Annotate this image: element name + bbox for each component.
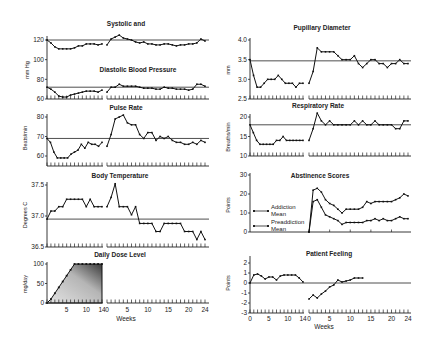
data-point	[89, 90, 91, 92]
data-point	[407, 63, 409, 65]
data-point	[172, 87, 174, 89]
data-point	[391, 220, 393, 222]
data-point	[274, 79, 276, 81]
data-point	[298, 277, 300, 279]
axes: 201510	[240, 112, 411, 159]
axes: 3020100	[240, 171, 411, 235]
data-point	[58, 206, 60, 208]
data-point	[184, 144, 186, 146]
data-point	[333, 218, 335, 220]
data-point	[60, 157, 62, 159]
data-point	[123, 114, 125, 116]
dose-area	[47, 264, 102, 303]
data-point	[188, 89, 190, 91]
x-tick-label: 0	[105, 306, 109, 313]
data-point	[139, 86, 141, 88]
data-point	[66, 48, 68, 50]
data-point	[264, 278, 266, 280]
x-tick-label: 5	[65, 306, 69, 313]
y-tick-label: 0	[40, 299, 44, 306]
data-point	[302, 140, 304, 142]
x-tick-label: 5	[126, 306, 130, 313]
chart-title: Systolic and	[107, 20, 145, 28]
data-point	[272, 276, 274, 278]
data-point	[382, 201, 384, 203]
data-point	[74, 93, 76, 95]
axes: 100500510140510152024	[33, 260, 209, 313]
chart-title: Pulse Rate	[109, 104, 143, 111]
data-point	[66, 198, 68, 200]
data-point	[98, 145, 100, 147]
svg-text:Mean: Mean	[271, 226, 286, 232]
data-point	[89, 43, 91, 45]
data-point	[196, 144, 198, 146]
data-point	[58, 48, 60, 50]
data-point	[292, 140, 294, 142]
data-point	[94, 144, 96, 146]
data-point	[358, 208, 360, 210]
data-point	[312, 189, 314, 191]
data-point	[192, 231, 194, 233]
data-point	[378, 220, 380, 222]
data-point	[321, 51, 323, 53]
data-point	[127, 206, 129, 208]
data-point	[374, 120, 376, 122]
data-point	[403, 63, 405, 65]
data-point	[257, 273, 259, 275]
data-point	[253, 274, 255, 276]
y-tick-label: 120	[33, 36, 44, 43]
y-tick-label: 20	[240, 190, 248, 197]
data-point	[387, 124, 389, 126]
data-point	[184, 88, 186, 90]
data-point	[302, 281, 304, 283]
data-point	[159, 231, 161, 233]
data-point	[349, 208, 351, 210]
data-point	[276, 140, 278, 142]
data-point	[176, 223, 178, 225]
data-point	[288, 82, 290, 84]
data-point	[382, 218, 384, 220]
y-tick-label: 30	[240, 171, 248, 178]
data-point	[270, 79, 272, 81]
data-point	[114, 86, 116, 88]
data-point	[204, 40, 206, 42]
data-point	[46, 39, 48, 41]
data-point	[329, 203, 331, 205]
data-point	[70, 48, 72, 50]
data-point	[82, 198, 84, 200]
data-point	[370, 203, 372, 205]
data-point	[329, 120, 331, 122]
data-point	[366, 63, 368, 65]
data-point	[135, 124, 137, 126]
data-point	[106, 91, 108, 93]
svg-text:Addiction: Addiction	[271, 204, 296, 210]
data-point	[167, 223, 169, 225]
data-point	[159, 44, 161, 46]
data-point	[204, 85, 206, 87]
y-tick-label: 60	[37, 95, 45, 102]
data-point	[204, 142, 206, 144]
data-point	[399, 216, 401, 218]
data-point	[299, 82, 301, 84]
data-point	[54, 46, 56, 48]
data-point	[337, 220, 339, 222]
data-point	[341, 59, 343, 61]
data-point	[329, 216, 331, 218]
data-point	[131, 214, 133, 216]
data-point	[362, 207, 364, 209]
data-point	[200, 83, 202, 85]
data-point	[97, 91, 99, 93]
data-point	[266, 144, 268, 146]
data-point	[337, 55, 339, 57]
data-point	[407, 218, 409, 220]
data-point	[260, 86, 262, 88]
data-point	[127, 38, 129, 40]
y-tick-label: 100	[33, 260, 44, 267]
data-point	[78, 198, 80, 200]
data-point	[87, 142, 89, 144]
data-point	[403, 218, 405, 220]
svg-text:Preaddiction: Preaddiction	[271, 219, 304, 225]
x-tick-label: 5	[328, 315, 332, 322]
data-point	[279, 275, 281, 277]
data-point	[123, 37, 125, 39]
